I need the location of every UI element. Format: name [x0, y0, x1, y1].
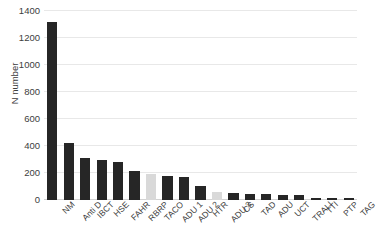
y-axis-tick-label: 0 — [0, 195, 40, 205]
bar-series — [44, 11, 357, 200]
y-axis-tick-label: 600 — [0, 114, 40, 124]
y-axis-tick-label: 1200 — [0, 33, 40, 43]
chart-title — [0, 0, 361, 8]
x-axis-tick: HSE — [112, 200, 131, 219]
bar — [179, 177, 189, 200]
y-axis-tick-label: 800 — [0, 87, 40, 97]
y-axis-tick-label: 200 — [0, 168, 40, 178]
bar — [195, 186, 205, 200]
bar — [162, 176, 172, 200]
bar — [47, 22, 57, 200]
bar — [64, 143, 74, 200]
x-axis-tick: TAG — [359, 200, 377, 218]
y-axis-tick-label: 1000 — [0, 60, 40, 70]
y-axis-tick-label: 400 — [0, 141, 40, 151]
x-axis-tick-label: HSE — [112, 200, 131, 219]
y-axis-tick-labels: 0200400600800100012001400 — [0, 11, 40, 200]
x-axis-tick-label: TAG — [359, 200, 377, 218]
bar — [97, 160, 107, 200]
x-axis-tick-label: NM — [61, 200, 77, 216]
x-axis-tick-labels: NMAnti DIBCTHSEFAHRRBRPTACOADU 1ADU 2HTR… — [44, 200, 357, 240]
x-axis-tick-label: PTP — [342, 200, 360, 218]
x-axis-tick: TAD — [260, 200, 278, 218]
y-axis-tick-label: 1400 — [0, 6, 40, 16]
x-axis-tick-label: TAD — [260, 200, 278, 218]
x-axis-tick: PTP — [342, 200, 360, 218]
bar — [113, 162, 123, 200]
bar — [228, 193, 238, 200]
x-axis-tick: UCT — [293, 200, 312, 219]
plot-area — [44, 11, 357, 200]
bar — [129, 171, 139, 200]
bar — [146, 174, 156, 200]
bar — [80, 158, 90, 200]
x-axis-tick-label: UCT — [293, 200, 312, 219]
x-axis-tick: NM — [61, 200, 77, 216]
